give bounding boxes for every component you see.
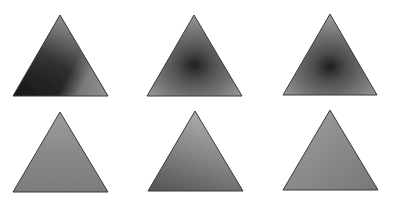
triangle-4-fill (13, 112, 108, 192)
triangle-3-fill (283, 14, 377, 95)
triangle-1-right-highlight (13, 15, 108, 96)
triangle-2 (147, 15, 242, 96)
triangle-6 (283, 110, 378, 190)
triangle-2-fill (147, 15, 242, 96)
triangle-5-fill (148, 111, 243, 191)
triangle-1 (13, 15, 108, 96)
triangle-4 (13, 112, 108, 192)
triangle-3 (283, 14, 377, 95)
triangle-grid-figure (0, 0, 393, 199)
triangle-5 (148, 111, 243, 191)
triangle-6-fill (283, 110, 378, 190)
